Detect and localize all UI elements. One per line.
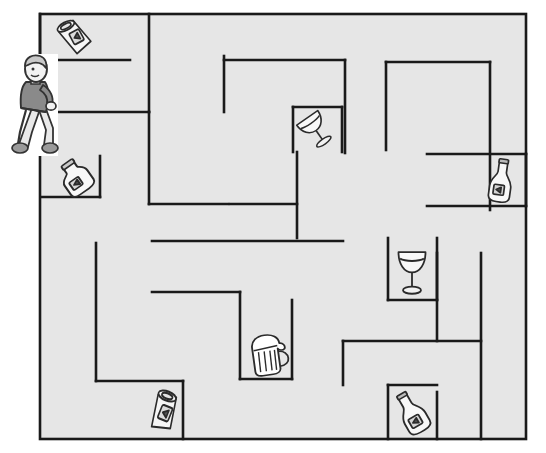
beer-mug[interactable] — [244, 332, 290, 378]
wine-glass-lower[interactable] — [394, 245, 430, 295]
wine-bottle-right[interactable] — [483, 158, 519, 204]
maze-puzzle-scene — [0, 0, 546, 453]
soda-can-top-left[interactable] — [56, 18, 94, 56]
milk-bottle-left[interactable] — [56, 158, 96, 198]
champagne-bottle-bottom[interactable] — [392, 390, 432, 436]
soda-can-bottom[interactable] — [145, 390, 183, 434]
maze-board — [0, 0, 546, 453]
walker-hitbox[interactable] — [6, 52, 62, 158]
tilted-wine-glass-upper[interactable] — [298, 110, 332, 148]
